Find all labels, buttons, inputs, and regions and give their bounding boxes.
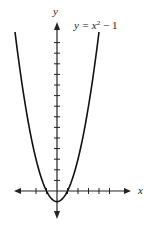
y-axis-label: y [52, 5, 58, 17]
parabola-graph: y x y = x2 − 1 [0, 0, 151, 240]
y-axis-down-arrow-icon [54, 211, 60, 219]
x-axis-label: x [137, 184, 143, 196]
y-axis-up-arrow-icon [54, 22, 60, 30]
x-axis-left-arrow-icon [14, 188, 21, 194]
equation-label: y = x2 − 1 [73, 19, 117, 31]
axes [14, 22, 131, 219]
x-axis-right-arrow-icon [124, 188, 131, 194]
